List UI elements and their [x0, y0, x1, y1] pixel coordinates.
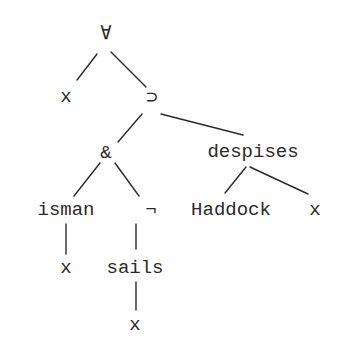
node-forall: ∀ — [100, 23, 111, 45]
parse-tree: ∀ x ⊃ & despises isman ¬ Haddock x x sai… — [0, 0, 339, 349]
node-despises: despises — [207, 141, 298, 163]
node-isman: isman — [37, 199, 94, 221]
node-x-sails-arg: x — [129, 314, 140, 336]
edge-implies-and — [118, 114, 142, 142]
edge-despises-x2 — [250, 167, 308, 194]
edge-despises-haddock — [225, 167, 246, 193]
node-not: ¬ — [145, 199, 156, 221]
edge-and-not — [115, 163, 139, 196]
edge-forall-x1 — [77, 54, 97, 80]
node-x-despises-arg: x — [309, 199, 320, 221]
edge-forall-implies — [111, 52, 146, 87]
node-haddock: Haddock — [191, 199, 271, 221]
node-x-bound: x — [60, 86, 71, 108]
edge-implies-despises — [161, 114, 243, 135]
node-x-isman-arg: x — [60, 257, 71, 279]
tree-edges — [0, 0, 339, 349]
node-sails: sails — [106, 257, 163, 279]
node-and: & — [100, 142, 111, 164]
node-implies: ⊃ — [146, 87, 157, 109]
edge-and-isman — [74, 163, 100, 196]
